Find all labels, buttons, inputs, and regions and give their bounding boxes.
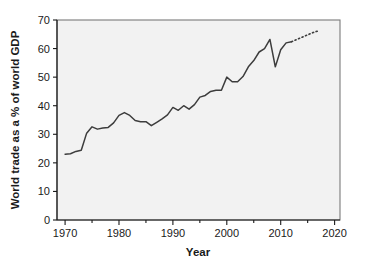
y-tick-label: 10 [38, 185, 50, 197]
x-tick-label: 2020 [322, 227, 346, 239]
y-tick-label: 70 [38, 14, 50, 26]
x-axis-title: Year [186, 246, 211, 258]
x-tick-label: 1970 [53, 227, 77, 239]
x-axis-tick-labels: 197019801990200020102020 [53, 227, 347, 239]
y-tick-label: 40 [38, 100, 50, 112]
y-axis-title: World trade as a % of world GDP [9, 30, 21, 209]
y-tick-label: 0 [44, 214, 50, 226]
x-tick-label: 2000 [215, 227, 239, 239]
plot-background [57, 20, 340, 220]
y-tick-label: 50 [38, 71, 50, 83]
y-tick-label: 30 [38, 128, 50, 140]
x-tick-label: 2010 [268, 227, 292, 239]
y-tick-label: 20 [38, 157, 50, 169]
y-tick-label: 60 [38, 43, 50, 55]
x-tick-label: 1990 [161, 227, 185, 239]
y-axis-tick-labels: 010203040506070 [38, 14, 50, 226]
chart-figure: 010203040506070 197019801990200020102020… [0, 0, 368, 266]
world-trade-line-chart: 010203040506070 197019801990200020102020… [0, 0, 368, 266]
x-tick-label: 1980 [107, 227, 131, 239]
